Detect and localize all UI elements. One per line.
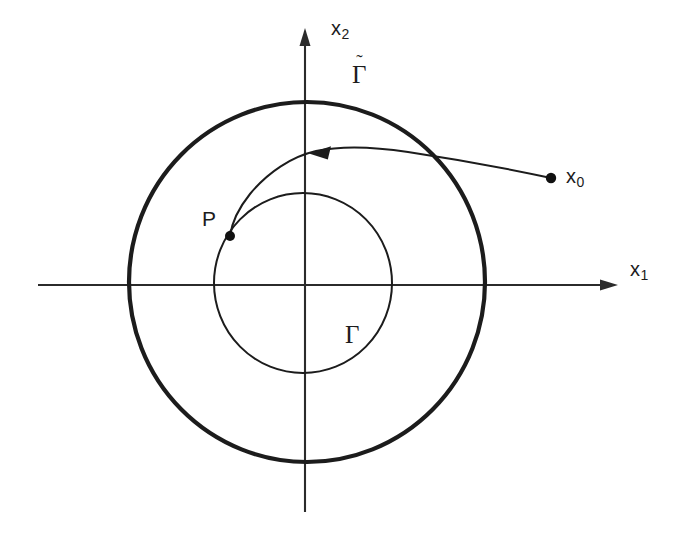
x2-axis-label-subscript: 2 (342, 26, 350, 42)
point-dot-p (225, 231, 235, 241)
trajectory-path (230, 148, 551, 236)
axis-group (38, 28, 618, 512)
inner-cycle-label-glyph: Γ (345, 321, 359, 348)
x2-axis-arrowhead (300, 28, 311, 46)
inner-cycle-label-gamma: Γ (345, 322, 359, 347)
x1-axis-label: x1 (630, 259, 648, 282)
figure-canvas: x2 x1 ˜Γ Γ P x0 (0, 0, 677, 535)
point-label-x0-subscript: 0 (577, 174, 585, 190)
x1-axis-label-base: x (630, 258, 640, 280)
x1-axis-label-subscript: 1 (641, 267, 649, 283)
point-label-p: P (202, 208, 216, 229)
inner-limit-cycle-gamma (214, 193, 392, 373)
point-label-p-text: P (202, 207, 216, 230)
trajectory-arrowhead (309, 146, 331, 159)
outer-cycle-label-gamma-tilde: ˜Γ (352, 62, 366, 87)
trajectory-group (230, 146, 551, 236)
x2-axis-label: x2 (331, 18, 349, 41)
point-label-x0: x0 (566, 166, 584, 189)
x2-axis-label-base: x (331, 17, 341, 39)
point-label-x0-base: x (566, 165, 576, 187)
point-group (225, 173, 556, 241)
tilde-accent-mark: ˜ (356, 52, 362, 71)
x1-axis-arrowhead (600, 280, 618, 291)
point-dot-x0 (546, 173, 556, 183)
diagram-svg (0, 0, 677, 535)
